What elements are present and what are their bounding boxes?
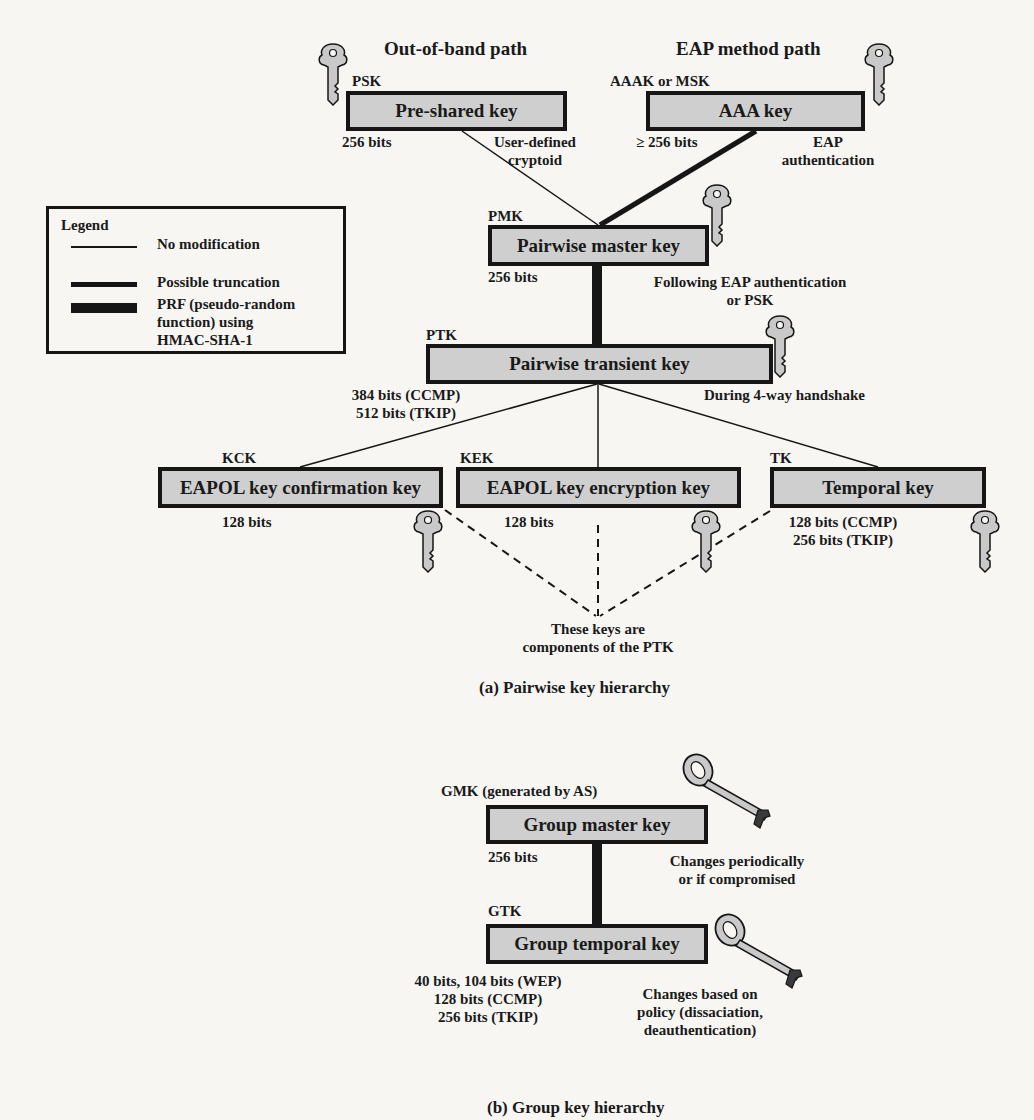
legend-box: Legend No modification Possible truncati… (46, 206, 346, 354)
kek-key-icon (689, 509, 723, 573)
pairwise-master-key-box: Pairwise master key (488, 225, 709, 266)
kck-key-icon (411, 509, 445, 573)
gmk-skeleton-key-icon (680, 752, 780, 832)
legend-thick-line-swatch (71, 303, 137, 313)
legend-title: Legend (61, 217, 109, 234)
ptk-abbr: PTK (426, 326, 457, 344)
eap-method-path-heading: EAP method path (676, 38, 821, 60)
psk-size: 256 bits (342, 133, 392, 151)
tk-abbr: TK (770, 449, 792, 467)
pmk-abbr: PMK (488, 207, 523, 225)
ptk-note: During 4-way handshake (704, 386, 865, 404)
psk-note: User-defined cryptoid (490, 133, 580, 169)
gtk-note: Changes based on policy (dissaciation, d… (620, 985, 780, 1039)
psk-key-icon (316, 42, 350, 106)
pairwise-master-key-label: Pairwise master key (517, 235, 680, 257)
aaa-note: EAP authentication (768, 133, 888, 169)
kek-abbr: KEK (460, 449, 493, 467)
legend-thin-line-swatch (71, 246, 137, 248)
legend-medium-line-swatch (71, 282, 137, 287)
group-master-key-box: Group master key (486, 805, 708, 844)
ptk-key-icon (763, 314, 797, 378)
tk-key-icon (968, 509, 1002, 573)
kck-abbr: KCK (222, 449, 256, 467)
pmk-key-icon (700, 183, 734, 247)
eapol-key-confirmation-key-box: EAPOL key confirmation key (158, 467, 443, 508)
temporal-key-box: Temporal key (770, 467, 986, 508)
gmk-note: Changes periodically or if compromised (652, 852, 822, 888)
kck-size: 128 bits (222, 513, 272, 531)
group-temporal-key-box: Group temporal key (486, 924, 708, 964)
group-master-key-label: Group master key (523, 814, 670, 836)
kek-size: 128 bits (504, 513, 554, 531)
legend-item-possible-truncation: Possible truncation (157, 273, 280, 291)
out-of-band-path-heading: Out-of-band path (384, 38, 527, 60)
gmk-size: 256 bits (488, 848, 538, 866)
group-temporal-key-label: Group temporal key (514, 933, 679, 955)
pre-shared-key-box: Pre-shared key (346, 91, 567, 131)
aaa-key-icon (862, 42, 896, 106)
tk-size: 128 bits (CCMP) 256 bits (TKIP) (778, 513, 908, 549)
caption-group-hierarchy: (b) Group key hierarchy (487, 1098, 664, 1118)
temporal-key-label: Temporal key (822, 477, 934, 499)
gtk-abbr: GTK (488, 902, 521, 920)
pmk-size: 256 bits (488, 268, 538, 286)
gmk-abbr: GMK (generated by AS) (441, 782, 597, 800)
legend-item-prf: PRF (pseudo-random function) using HMAC-… (157, 295, 295, 349)
pairwise-transient-key-label: Pairwise transient key (509, 353, 689, 375)
psk-abbr: PSK (352, 72, 381, 90)
eapol-key-encryption-key-label: EAPOL key encryption key (487, 477, 710, 499)
eapol-key-confirmation-key-label: EAPOL key confirmation key (180, 477, 421, 499)
ptk-size: 384 bits (CCMP) 512 bits (TKIP) (336, 386, 476, 422)
pre-shared-key-label: Pre-shared key (395, 100, 517, 122)
gtk-size: 40 bits, 104 bits (WEP) 128 bits (CCMP) … (398, 972, 578, 1026)
aaa-key-box: AAA key (646, 91, 865, 131)
aaa-size: ≥ 256 bits (636, 133, 698, 151)
aaa-key-label: AAA key (719, 100, 792, 122)
pairwise-transient-key-box: Pairwise transient key (426, 344, 773, 384)
pmk-note: Following EAP authentication or PSK (620, 273, 880, 309)
aaa-abbr: AAAK or MSK (610, 72, 710, 90)
eapol-key-encryption-key-box: EAPOL key encryption key (456, 467, 741, 508)
legend-item-no-modification: No modification (157, 235, 260, 253)
ptk-components-note: These keys are components of the PTK (508, 620, 688, 656)
caption-pairwise-hierarchy: (a) Pairwise key hierarchy (479, 678, 670, 698)
gtk-skeleton-key-icon (712, 912, 812, 992)
tk-component-dash (600, 511, 770, 616)
